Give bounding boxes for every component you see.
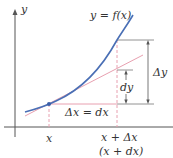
dy-arrow-up-icon [124,70,127,75]
delta-y-arrow-down-icon [146,100,149,105]
delta-y-label: Δy [153,67,167,78]
differential-diagram: y y = f(x) Δy dy Δx = dx x x + Δx (x + d… [0,0,173,158]
y-axis-arrow-icon [13,9,18,15]
x-plus-delta-x-label: x + Δx [101,132,138,143]
x-plus-dx-label: (x + dx) [99,146,143,157]
y-axis-label: y [21,4,27,15]
dy-arrow-down-icon [124,100,127,105]
point-on-curve [47,102,51,106]
delta-x-label: Δx = dx [65,107,109,118]
delta-y-arrow-up-icon [146,40,149,45]
diagram-graphics [0,0,173,158]
x-tick-label: x [46,133,52,144]
curve-label: y = f(x) [90,10,131,21]
dy-label: dy [120,82,133,93]
